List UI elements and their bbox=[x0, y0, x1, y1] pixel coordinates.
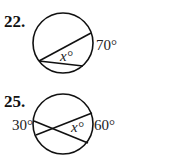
problem-number-25: 25. bbox=[4, 92, 25, 112]
diagrams bbox=[0, 0, 183, 160]
angle-label-x-22: x° bbox=[60, 48, 73, 65]
problem-25-diagram bbox=[33, 94, 93, 154]
problem-number-22: 22. bbox=[4, 12, 25, 32]
arc-label-60: 60° bbox=[94, 117, 115, 134]
angle-label-x-25: x° bbox=[71, 119, 84, 136]
arc-label-30: 30° bbox=[12, 117, 33, 134]
arc-label-70: 70° bbox=[96, 37, 117, 54]
